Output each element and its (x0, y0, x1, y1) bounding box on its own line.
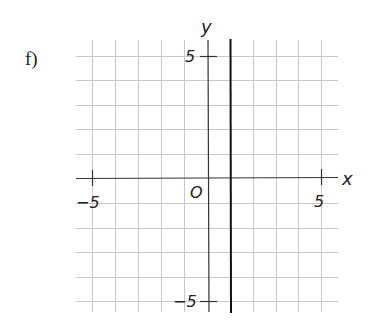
x-tick-label-pos5: 5 (314, 192, 324, 211)
y-tick-label-neg5: −5 (173, 292, 197, 311)
origin-label: O (190, 183, 203, 202)
vertical-line-x-equals-1 (231, 39, 232, 313)
y-tick-label-pos5: 5 (185, 47, 195, 66)
x-axis-label: x (341, 168, 353, 189)
coordinate-plane: −5 5 5 −5 O x y (0, 0, 374, 325)
y-axis-label: y (200, 16, 212, 37)
x-tick-label-neg5: −5 (76, 193, 100, 212)
grid (76, 40, 338, 312)
